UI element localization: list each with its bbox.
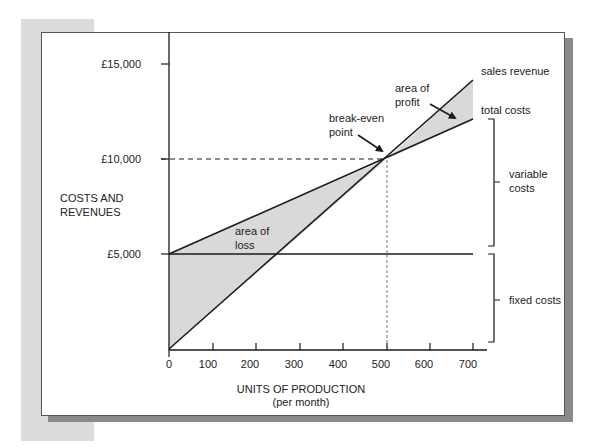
x-tick-label: 500: [372, 358, 390, 370]
y-axis-label-line1: COSTS AND: [60, 192, 124, 204]
x-axis-label: UNITS OF PRODUCTION: [237, 383, 365, 395]
variable-costs-label-line1: variable: [509, 168, 548, 180]
x-tick-label: 600: [415, 358, 433, 370]
break-even-chart: £15,000 £10,000 £5,000 0 100 200 300 400…: [0, 0, 599, 448]
y-tick-label: £5,000: [107, 248, 141, 260]
x-tick-label: 300: [285, 358, 303, 370]
variable-costs-label-line2: costs: [509, 182, 535, 194]
area-of-loss-label-line1: area of: [235, 225, 270, 237]
break-even-label-line1: break-even: [329, 112, 384, 124]
x-tick-label: 400: [329, 358, 347, 370]
x-axis-sublabel: (per month): [273, 396, 330, 408]
y-tick-label: £10,000: [101, 153, 141, 165]
area-of-profit-label-line2: profit: [395, 96, 419, 108]
break-even-arrow-icon: [358, 135, 382, 151]
sales-revenue-label: sales revenue: [481, 65, 550, 77]
y-axis-label-line2: REVENUES: [60, 206, 121, 218]
area-of-loss-label-line2: loss: [235, 239, 255, 251]
x-tick-label: 0: [166, 358, 172, 370]
x-tick-label: 200: [241, 358, 259, 370]
x-tick-label: 700: [459, 358, 477, 370]
total-costs-label: total costs: [481, 104, 531, 116]
fixed-costs-bracket: [488, 254, 500, 342]
x-tick-label: 100: [199, 358, 217, 370]
total-costs-line: [169, 119, 473, 254]
variable-costs-bracket: [488, 119, 500, 246]
break-even-label-line2: point: [329, 126, 353, 138]
fixed-costs-label: fixed costs: [509, 294, 561, 306]
sales-revenue-line: [169, 80, 473, 349]
y-tick-label: £15,000: [101, 58, 141, 70]
area-of-profit-label-line1: area of: [395, 82, 430, 94]
